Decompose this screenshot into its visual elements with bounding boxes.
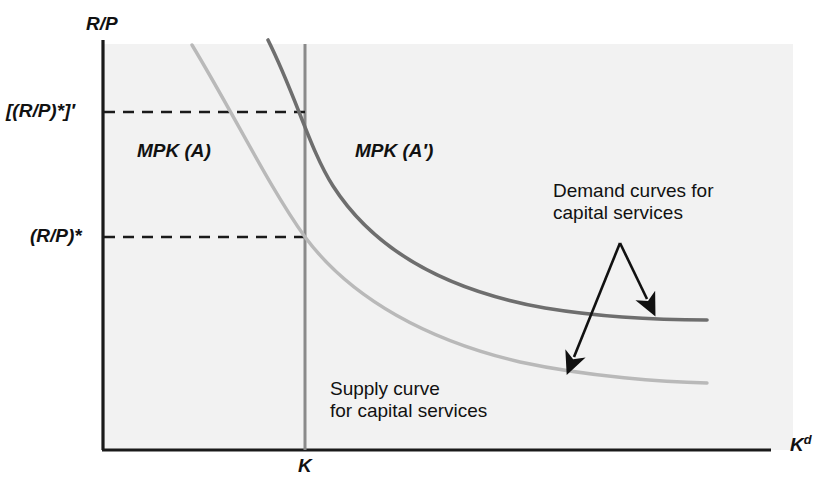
demand-curves-annotation-line-2: capital services <box>553 202 714 224</box>
x-axis-label-base: K <box>790 434 804 455</box>
tick-label-rental-rate-new: [(R/P)*]′ <box>6 100 75 122</box>
supply-curve-annotation-line-2: for capital services <box>330 400 487 422</box>
demand-curves-annotation-line-1: Demand curves for <box>553 180 714 202</box>
x-axis-label-superscript: d <box>804 432 812 447</box>
demand-curves-annotation: Demand curves for capital services <box>553 180 714 225</box>
supply-curve-annotation-line-1: Supply curve <box>330 378 487 400</box>
x-axis-label: Kd <box>790 432 812 457</box>
capital-services-diagram: R/P Kd [(R/P)*]′ (R/P)* K MPK (A) MPK (A… <box>0 0 837 489</box>
tick-label-capital-stock: K <box>298 455 312 477</box>
supply-curve-annotation: Supply curve for capital services <box>330 378 487 423</box>
curve-label-mpk-a: MPK (A) <box>137 140 211 162</box>
y-axis-label: R/P <box>86 13 118 35</box>
curve-label-mpk-a-prime: MPK (A′) <box>355 140 433 162</box>
tick-label-rental-rate-initial: (R/P)* <box>30 225 82 247</box>
